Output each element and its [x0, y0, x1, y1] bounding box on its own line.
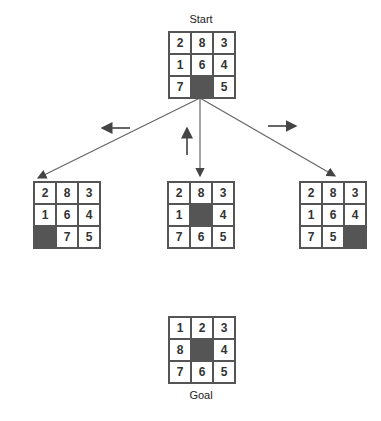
tile: 7	[168, 226, 190, 248]
tile: 5	[213, 361, 235, 383]
tile: 4	[213, 339, 235, 361]
tile: 2	[191, 317, 213, 339]
edge-right	[200, 98, 335, 176]
tile: 6	[322, 204, 344, 226]
tile: 8	[169, 339, 191, 361]
blank-tile	[344, 226, 366, 248]
tile: 8	[56, 182, 78, 204]
tile: 7	[169, 76, 191, 98]
tile: 7	[56, 226, 78, 248]
tile: 5	[213, 76, 235, 98]
child-state-up: 2 8 3 1 4 7 6 5	[167, 181, 235, 249]
goal-state: 1 2 3 8 4 7 6 5	[168, 316, 236, 384]
tile: 5	[212, 226, 234, 248]
tile: 1	[169, 317, 191, 339]
tile: 7	[169, 361, 191, 383]
tile: 6	[190, 226, 212, 248]
tile: 5	[78, 226, 100, 248]
blank-tile	[190, 204, 212, 226]
blank-tile	[191, 76, 213, 98]
tile: 7	[300, 226, 322, 248]
tile: 6	[191, 54, 213, 76]
tile: 1	[168, 204, 190, 226]
tile: 3	[78, 182, 100, 204]
tile: 1	[34, 204, 56, 226]
tile: 3	[344, 182, 366, 204]
tile: 3	[212, 182, 234, 204]
tile: 4	[344, 204, 366, 226]
tile: 8	[322, 182, 344, 204]
tile: 2	[169, 32, 191, 54]
tile: 8	[191, 32, 213, 54]
tile: 6	[191, 361, 213, 383]
tile: 4	[78, 204, 100, 226]
tile: 2	[300, 182, 322, 204]
goal-label: Goal	[161, 389, 241, 401]
tile: 3	[213, 317, 235, 339]
blank-tile	[191, 339, 213, 361]
tile: 4	[213, 54, 235, 76]
tile: 2	[34, 182, 56, 204]
child-state-left: 2 8 3 1 6 4 7 5	[33, 181, 101, 249]
start-label: Start	[161, 13, 241, 25]
edge-left	[38, 98, 200, 178]
tile: 1	[169, 54, 191, 76]
move-arrows	[102, 126, 296, 155]
tile: 3	[213, 32, 235, 54]
blank-tile	[34, 226, 56, 248]
tile: 6	[56, 204, 78, 226]
tile: 4	[212, 204, 234, 226]
start-state: 2 8 3 1 6 4 7 5	[168, 31, 236, 99]
child-state-right: 2 8 3 1 6 4 7 5	[299, 181, 367, 249]
tile: 5	[322, 226, 344, 248]
tile: 1	[300, 204, 322, 226]
tile: 2	[168, 182, 190, 204]
tile: 8	[190, 182, 212, 204]
